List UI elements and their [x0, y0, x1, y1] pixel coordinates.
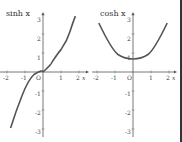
- origin-label: O: [36, 74, 41, 81]
- y-axis-arrow-icon: [132, 12, 135, 15]
- y-tick-label: -3: [35, 128, 41, 135]
- x-axis-arrow-icon: [86, 71, 89, 74]
- y-tick-label: 1: [37, 54, 41, 61]
- cosh-title: cosh x: [100, 9, 126, 18]
- sinh-plot: sinh x -2 -1 O 1 2 x 3 2 1 -1 -2 -3: [0, 9, 89, 137]
- y-axis-arrow-icon: [42, 12, 45, 15]
- sinh-title: sinh x: [6, 9, 31, 18]
- x-tick-label: 1: [59, 74, 63, 81]
- x-tick-label: -2: [93, 74, 99, 81]
- y-tick-label: -2: [125, 109, 131, 116]
- x-tick-label: -1: [111, 74, 117, 81]
- x-tick-label: -2: [3, 74, 9, 81]
- y-tick-label: 2: [37, 35, 41, 42]
- x-tick-label: -1: [21, 74, 27, 81]
- hyperbolic-functions-figure: sinh x -2 -1 O 1 2 x 3 2 1 -1 -2 -3 cosh…: [0, 0, 182, 142]
- y-tick-label: -3: [125, 128, 131, 135]
- y-tick-label: -1: [125, 90, 131, 97]
- x-tick-label: 2: [76, 74, 80, 81]
- y-tick-label: -2: [35, 109, 41, 116]
- x-tick-label: 2: [166, 74, 170, 81]
- x-axis-label: x: [172, 74, 176, 81]
- x-axis-label: x: [82, 74, 86, 81]
- origin-label: O: [127, 74, 132, 81]
- cosh-plot: cosh x -2 -1 O 1 2 x 3 2 1 -1 -2 -3: [92, 9, 177, 137]
- y-tick-label: 3: [37, 16, 41, 23]
- y-tick-label: 1: [127, 54, 131, 61]
- y-tick-label: -1: [35, 90, 41, 97]
- y-tick-label: 3: [127, 16, 131, 23]
- right-border-divider: [180, 0, 182, 142]
- x-tick-label: 1: [149, 74, 153, 81]
- y-tick-label: 2: [127, 35, 131, 42]
